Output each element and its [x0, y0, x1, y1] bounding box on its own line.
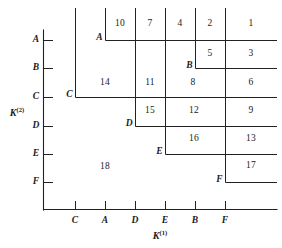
- region-cell: 14: [100, 78, 110, 88]
- x-tick-label-a: A: [102, 216, 108, 226]
- region-cell: 18: [100, 162, 110, 172]
- x-axis-title-superscript: (1): [160, 229, 168, 236]
- region-cell: 6: [249, 78, 254, 88]
- x-axis-ticks: [76, 201, 226, 210]
- y-tick-label-e: E: [33, 149, 39, 159]
- region-cell: 10: [115, 19, 125, 29]
- step-corner-label-c: C: [66, 90, 74, 100]
- diagram-canvas: [0, 0, 282, 248]
- x-tick-label-f: F: [222, 216, 228, 226]
- step-corner-label-f: F: [216, 175, 224, 185]
- region-cell: 5: [208, 49, 213, 59]
- x-tick-label-e: E: [162, 216, 168, 226]
- x-axis-title-base: K: [153, 230, 160, 241]
- step-corner-label-a: A: [96, 33, 104, 43]
- region-cell: 1: [249, 19, 254, 29]
- step-corner-label-b: B: [186, 61, 194, 71]
- y-axis-title: K(2): [10, 108, 24, 118]
- region-cell: 17: [246, 161, 256, 171]
- y-axis-ticks: [44, 41, 54, 183]
- region-cell: 13: [246, 134, 256, 144]
- y-tick-label-a: A: [33, 35, 39, 45]
- x-tick-label-d: D: [132, 216, 139, 226]
- x-tick-label-b: B: [192, 216, 198, 226]
- y-axis-title-base: K: [10, 107, 17, 118]
- region-cell: 12: [189, 106, 199, 116]
- y-tick-label-c: C: [33, 92, 39, 102]
- y-tick-label-d: D: [33, 121, 40, 131]
- region-cell: 15: [145, 106, 155, 116]
- step-corner-label-e: E: [156, 147, 164, 157]
- region-cell: 7: [148, 19, 153, 29]
- region-cell: 2: [208, 19, 213, 29]
- y-axis-title-superscript: (2): [17, 106, 25, 113]
- region-cell: 4: [178, 19, 183, 29]
- staircase-diagram: A B C D E F C A D E B F A B C D E F 1 2 …: [0, 0, 282, 248]
- region-cell: 9: [249, 106, 254, 116]
- region-cell: 3: [249, 49, 254, 59]
- x-tick-label-c: C: [72, 216, 78, 226]
- y-tick-label-f: F: [33, 177, 39, 187]
- step-corner-label-d: D: [126, 119, 134, 129]
- region-cell: 11: [145, 78, 155, 88]
- region-cell: 16: [189, 134, 199, 144]
- region-cell: 8: [191, 78, 196, 88]
- x-axis-title: K(1): [153, 231, 167, 241]
- y-tick-label-b: B: [33, 63, 39, 73]
